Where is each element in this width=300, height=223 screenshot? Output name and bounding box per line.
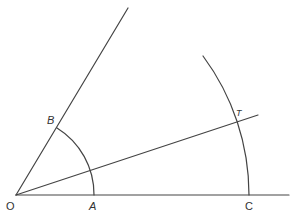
label-b: B	[47, 114, 54, 126]
ray-ob	[16, 8, 128, 195]
label-a: A	[88, 200, 96, 212]
label-t: T	[236, 108, 243, 118]
arc-ab	[57, 128, 94, 195]
diagram-svg: O A B C T	[0, 0, 300, 223]
label-c: C	[245, 200, 253, 212]
label-o: O	[6, 200, 15, 212]
geometry-diagram: O A B C T	[0, 0, 300, 223]
ray-ot	[16, 115, 258, 195]
